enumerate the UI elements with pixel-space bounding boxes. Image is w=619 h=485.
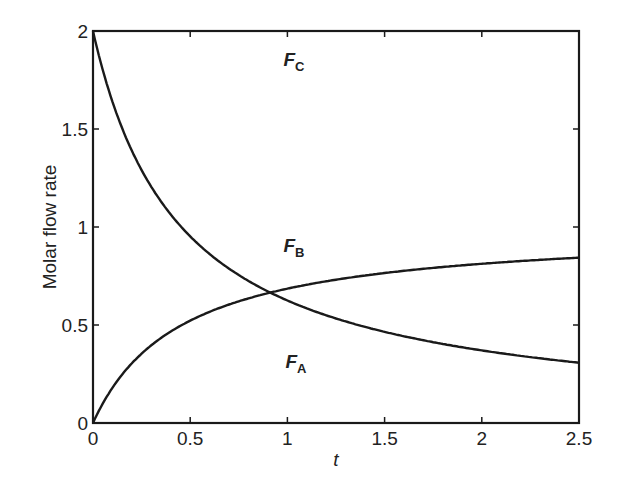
curve-label-c: FC — [284, 49, 306, 74]
curves — [93, 31, 579, 423]
plot-frame — [93, 31, 579, 423]
x-axis-ticks: 00.511.522.5 — [88, 31, 593, 449]
curve-labels: FCFBFA — [284, 49, 308, 376]
x-tick-label: 0.5 — [177, 428, 203, 449]
x-axis-title: t — [333, 449, 339, 470]
x-tick-label: 0 — [88, 428, 99, 449]
curve-f-a — [93, 31, 579, 363]
y-tick-label: 2 — [77, 21, 88, 42]
y-axis-title: Molar flow rate — [39, 165, 60, 290]
y-tick-label: 1.5 — [62, 119, 88, 140]
curve-label-a: FA — [285, 351, 307, 376]
y-tick-label: 0.5 — [62, 315, 88, 336]
y-tick-label: 0 — [77, 413, 88, 434]
x-tick-label: 1.5 — [371, 428, 397, 449]
x-tick-label: 2.5 — [566, 428, 592, 449]
y-tick-label: 1 — [77, 217, 88, 238]
x-tick-label: 2 — [477, 428, 488, 449]
x-tick-label: 1 — [282, 428, 293, 449]
chart: 00.511.522.5 00.511.52 FCFBFA t Molar fl… — [0, 0, 619, 485]
curve-label-b: FB — [284, 235, 305, 260]
curve-f-b — [93, 258, 579, 423]
y-axis-ticks: 00.511.52 — [62, 21, 579, 434]
